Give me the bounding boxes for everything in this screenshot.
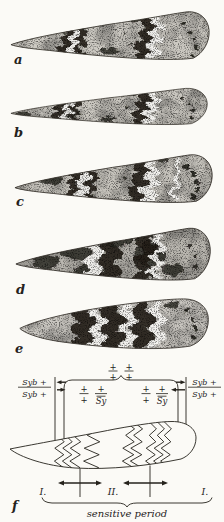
wing-drawing-a (8, 6, 216, 64)
fraction-numerator: + (158, 384, 165, 394)
wing-pattern-zigzag-lines (54, 416, 171, 474)
wing-drawing-d (13, 222, 217, 285)
fraction-numerator: + (80, 384, 87, 394)
region-label-2: II. (107, 486, 119, 497)
fraction-numerator: + (97, 384, 104, 394)
sensitive-period-brace (42, 498, 212, 508)
fraction-numerator: + (109, 362, 116, 372)
fraction-numerator: Syb + (22, 378, 46, 387)
panel-label-d: d (16, 283, 25, 296)
fraction-denominator: Syb + (22, 390, 46, 399)
fraction-numerator: + (125, 362, 132, 372)
inner-left-genotype-fractions: + + + Sy (80, 384, 108, 407)
wing-drawing-c (12, 149, 219, 207)
region-label-3: I. (201, 486, 209, 497)
panel-label-a: a (14, 53, 22, 66)
outer-right-genotype-fraction: Syb + Syb + (188, 378, 221, 400)
panel-label-c: c (16, 195, 24, 208)
inner-right-genotype-fractions: + + + Sy (142, 384, 169, 407)
fraction-denominator: + (142, 395, 149, 405)
region-label-1: I. (39, 486, 47, 497)
right-double-arrow-icon (123, 480, 168, 485)
fraction-denominator: Syb + (192, 390, 216, 399)
panel-f-diagram: + + + + Syb + Syb + Syb + Syb + (0, 358, 224, 522)
fraction-numerator: + (142, 384, 149, 394)
outer-left-genotype-fraction: Syb + Syb + (18, 378, 51, 400)
fraction-numerator: Syb + (192, 378, 216, 387)
wing-drawing-e (16, 293, 217, 352)
sensitive-period-caption: sensitive period (87, 508, 168, 519)
panel-label-b: b (14, 126, 23, 139)
top-genotype-left-fraction: + + (109, 362, 118, 382)
wing-drawing-b (8, 84, 214, 128)
fraction-denominator: Sy (96, 396, 107, 406)
panel-label-e: e (15, 342, 23, 355)
fraction-denominator: + (80, 395, 87, 405)
fraction-denominator: Sy (157, 396, 168, 406)
top-genotype-right-fraction: + + (125, 362, 134, 382)
schematic-wing-outline (10, 422, 196, 469)
